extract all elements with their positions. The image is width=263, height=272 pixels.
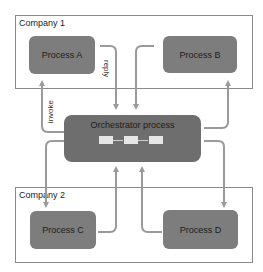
orchestrator-title: Orchestrator process bbox=[64, 120, 201, 130]
process-d-label: Process D bbox=[180, 225, 222, 235]
orchestrator-process: Orchestrator process bbox=[64, 115, 201, 162]
process-b-label: Process B bbox=[179, 50, 220, 60]
process-d: Process D bbox=[163, 210, 238, 249]
process-c-label: Process C bbox=[42, 225, 84, 235]
process-a: Process A bbox=[29, 36, 95, 74]
process-c: Process C bbox=[30, 211, 96, 249]
step-connector-1 bbox=[113, 140, 123, 141]
orchestrator-step-2 bbox=[124, 136, 138, 144]
step-connector-2 bbox=[138, 140, 148, 141]
process-a-label: Process A bbox=[42, 50, 83, 60]
orchestrator-step-1 bbox=[99, 136, 113, 144]
reply-label: reply bbox=[102, 60, 111, 77]
process-b: Process B bbox=[163, 36, 237, 73]
orchestrator-step-3 bbox=[149, 136, 163, 144]
invoke-label: invoke bbox=[46, 100, 55, 123]
